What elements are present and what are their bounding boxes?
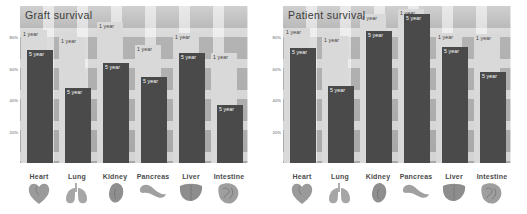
bar-label-five-year: 5 year <box>444 48 459 54</box>
bar-five-year[interactable]: 5 year <box>179 53 205 163</box>
chart-panel-graft-survival: 80%60%40%20% Graft survival 1 year5 year… <box>0 0 264 214</box>
bar-label-one-year: 1 year <box>99 23 114 29</box>
bar-label-five-year: 5 year <box>143 78 158 84</box>
bar-label-one-year: 1 year <box>61 38 76 44</box>
bar-group-container-patient: 1 year5 year1 year5 year1 year5 year1 ye… <box>283 6 511 163</box>
bar-five-year[interactable]: 5 year <box>290 48 316 163</box>
y-axis-tick: 40% <box>273 98 281 103</box>
chart-panel-patient-survival: 80%60%40%20% Patient survival 1 year5 ye… <box>263 0 527 214</box>
plot-area-graft: Graft survival 1 year5 year1 year5 year1… <box>20 6 248 163</box>
y-axis-ticks-patient: 80%60%40%20% <box>263 6 283 163</box>
y-axis-tick: 80% <box>10 35 18 40</box>
bar-label-five-year: 5 year <box>105 64 120 70</box>
bar-label-five-year: 5 year <box>330 87 345 93</box>
bar-label-one-year: 1 year <box>324 37 339 43</box>
bar-label-five-year: 5 year <box>67 89 82 95</box>
bar-label-one-year: 1 year <box>476 35 491 41</box>
figure-two-panel-survival: 80%60%40%20% Graft survival 1 year5 year… <box>0 0 527 214</box>
plot-area-patient: Patient survival 1 year5 year1 year5 yea… <box>283 6 511 163</box>
organ-icons-patient <box>283 178 511 210</box>
bar-five-year[interactable]: 5 year <box>366 31 392 163</box>
chart-title-patient: Patient survival <box>288 9 366 21</box>
y-axis-tick: 20% <box>10 129 18 134</box>
bar-label-five-year: 5 year <box>292 49 307 55</box>
organ-icon-intestine <box>207 180 251 210</box>
y-axis-tick: 40% <box>10 98 18 103</box>
organ-icons-graft <box>20 178 248 210</box>
y-axis-tick: 60% <box>10 66 18 71</box>
bar-label-five-year: 5 year <box>29 51 44 57</box>
bar-label-five-year: 5 year <box>406 15 421 21</box>
bar-label-five-year: 5 year <box>368 32 383 38</box>
bar-five-year[interactable]: 5 year <box>404 14 430 163</box>
bar-label-five-year: 5 year <box>482 73 497 79</box>
y-axis-tick: 60% <box>273 66 281 71</box>
y-axis-tick: 20% <box>273 129 281 134</box>
bar-five-year[interactable]: 5 year <box>141 77 167 163</box>
bar-label-one-year: 1 year <box>213 54 228 60</box>
bar-five-year[interactable]: 5 year <box>65 88 91 163</box>
bar-label-one-year: 1 year <box>23 31 38 37</box>
bar-group-container-graft: 1 year5 year1 year5 year1 year5 year1 ye… <box>20 6 248 163</box>
bar-label-five-year: 5 year <box>181 54 196 60</box>
bar-label-one-year: 1 year <box>137 46 152 52</box>
bar-label-five-year: 5 year <box>219 106 234 112</box>
bar-five-year[interactable]: 5 year <box>328 86 354 163</box>
y-axis-ticks-graft: 80%60%40%20% <box>0 6 20 163</box>
bar-five-year[interactable]: 5 year <box>442 47 468 163</box>
bar-label-one-year: 1 year <box>438 34 453 40</box>
bar-five-year[interactable]: 5 year <box>480 72 506 163</box>
bar-five-year[interactable]: 5 year <box>217 105 243 163</box>
organ-icon-intestine <box>470 180 514 210</box>
bar-label-one-year: 1 year <box>175 34 190 40</box>
y-axis-tick: 80% <box>273 35 281 40</box>
bar-five-year[interactable]: 5 year <box>103 63 129 163</box>
chart-title-graft: Graft survival <box>25 9 92 21</box>
bar-five-year[interactable]: 5 year <box>27 50 53 163</box>
bar-label-one-year: 1 year <box>286 29 301 35</box>
